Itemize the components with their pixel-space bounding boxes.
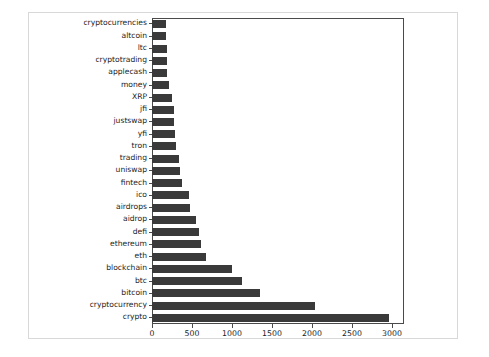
bar-fintech [152, 179, 182, 187]
bar-eth [152, 253, 206, 261]
x-axis-ticklabel-3000: 3000 [382, 329, 402, 338]
bar-xrp [152, 94, 172, 102]
bar-justswap [152, 118, 174, 126]
bar-trading [152, 155, 179, 163]
x-axis-tick [272, 324, 273, 328]
x-axis-ticklabel-0: 0 [150, 329, 155, 338]
bar-ico [152, 191, 189, 199]
bar-cryptocurrencies [152, 20, 166, 28]
y-axis-label-crypto: crypto [123, 310, 147, 323]
bar-ethereum [152, 240, 201, 248]
x-axis-tick [392, 324, 393, 328]
x-axis-ticklabel-1000: 1000 [222, 329, 242, 338]
bar-jfi [152, 106, 174, 114]
bar-money [152, 81, 169, 89]
x-axis-ticklabel-1500: 1500 [262, 329, 282, 338]
x-axis-tick [232, 324, 233, 328]
bar-ltc [152, 45, 167, 53]
x-axis-tick [352, 324, 353, 328]
bar-btc [152, 277, 242, 285]
bar-airdrops [152, 204, 190, 212]
bar-tron [152, 142, 176, 150]
x-axis-tick [152, 324, 153, 328]
bar-uniswap [152, 167, 180, 175]
x-axis-ticklabel-2500: 2500 [342, 329, 362, 338]
bar-chart-plot-area: cryptocurrenciesaltcoinltccryptotradinga… [152, 18, 404, 324]
bar-blockchain [152, 265, 232, 273]
x-axis-ticklabel-2000: 2000 [302, 329, 322, 338]
bar-bitcoin [152, 289, 260, 297]
bar-row: crypto [152, 311, 404, 324]
x-axis-tick [192, 324, 193, 328]
bar-defi [152, 228, 199, 236]
x-axis-tick [312, 324, 313, 328]
x-axis-ticklabel-500: 500 [185, 329, 200, 338]
screenshot-root: cryptocurrenciesaltcoinltccryptotradinga… [0, 0, 489, 357]
bar-applecash [152, 69, 167, 77]
bar-altcoin [152, 32, 166, 40]
bar-cryptotrading [152, 57, 167, 65]
bar-yfi [152, 130, 175, 138]
bar-cryptocurrency [152, 302, 315, 310]
bar-aidrop [152, 216, 196, 224]
bar-crypto [152, 314, 389, 322]
